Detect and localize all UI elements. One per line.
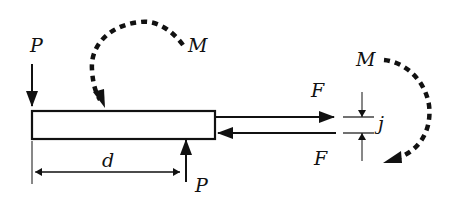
free-body-diagram: P M d P F F j M [0, 0, 465, 203]
f-top-label: F [310, 79, 325, 101]
j-label: j [374, 112, 384, 134]
m-right-label: M [355, 48, 376, 70]
beam [32, 111, 215, 139]
p-left-label: P [29, 34, 44, 56]
f-bottom-label: F [313, 147, 328, 169]
diagram-canvas: P M d P F F j M [0, 0, 465, 203]
p-bottom-label: P [194, 174, 209, 196]
m-left-label: M [187, 34, 208, 56]
m-left-moment-icon [92, 22, 183, 108]
m-right-moment-icon [383, 60, 429, 163]
j-dimension-icon [343, 92, 374, 161]
d-label: d [102, 149, 114, 171]
